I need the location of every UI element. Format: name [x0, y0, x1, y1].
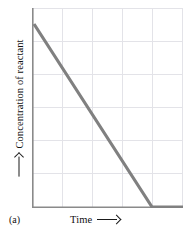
y-axis-label-block: Concentration of reactant	[8, 8, 30, 208]
line-chart-svg	[32, 8, 183, 208]
x-axis-label-block: Time	[70, 214, 121, 225]
arrow-right-icon	[97, 215, 121, 224]
panel-label: (a)	[9, 214, 20, 225]
arrow-up-icon	[15, 153, 24, 177]
plot-area	[32, 8, 183, 208]
x-axis-label-text: Time	[70, 214, 92, 225]
y-axis-label-rotated: Concentration of reactant	[14, 39, 25, 176]
y-axis-label-text: Concentration of reactant	[14, 39, 25, 148]
figure-panel-a: Concentration of reactant	[0, 0, 193, 244]
